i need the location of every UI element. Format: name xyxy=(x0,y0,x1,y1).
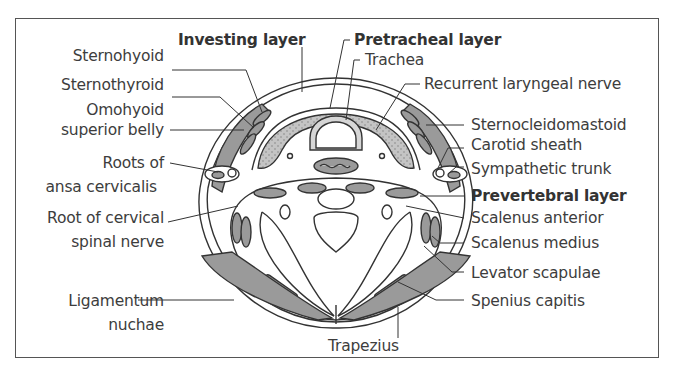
label-scalenus-anterior: Scalenus anterior xyxy=(471,209,603,227)
vertebral-body xyxy=(318,189,354,209)
label-splenius-capitis: Spenius capitis xyxy=(471,292,585,310)
label-omohyoid: Omohyoid xyxy=(86,101,164,119)
label-trapezius: Trapezius xyxy=(328,337,399,355)
label-root-of-cervical: Root of cervical xyxy=(47,209,164,227)
label-carotid-sheath: Carotid sheath xyxy=(471,136,582,154)
label-sternohyoid: Sternohyoid xyxy=(73,47,164,65)
label-recurrent-laryngeal-nerve: Recurrent laryngeal nerve xyxy=(424,75,621,93)
label-trachea: Trachea xyxy=(365,51,424,69)
label-pretracheal-layer: Pretracheal layer xyxy=(354,31,501,49)
label-omohyoid-superior-belly: superior belly xyxy=(61,121,164,139)
label-ligamentum: Ligamentum xyxy=(68,292,164,310)
label-ansa-cervicalis: ansa cervicalis xyxy=(46,178,157,196)
label-scalenus-medius: Scalenus medius xyxy=(471,234,599,252)
label-levator-scapulae: Levator scapulae xyxy=(471,264,600,282)
label-prevertebral-layer: Prevertebral layer xyxy=(471,187,627,205)
label-roots-of: Roots of xyxy=(103,154,164,172)
label-investing-layer: Investing layer xyxy=(178,31,305,49)
label-sympathetic-trunk: Sympathetic trunk xyxy=(471,160,611,178)
label-nuchae: nuchae xyxy=(108,316,164,334)
label-sternothyroid: Sternothyroid xyxy=(61,76,164,94)
label-sternocleidomastoid: Sternocleidomastoid xyxy=(471,116,626,134)
label-spinal-nerve: spinal nerve xyxy=(71,233,164,251)
